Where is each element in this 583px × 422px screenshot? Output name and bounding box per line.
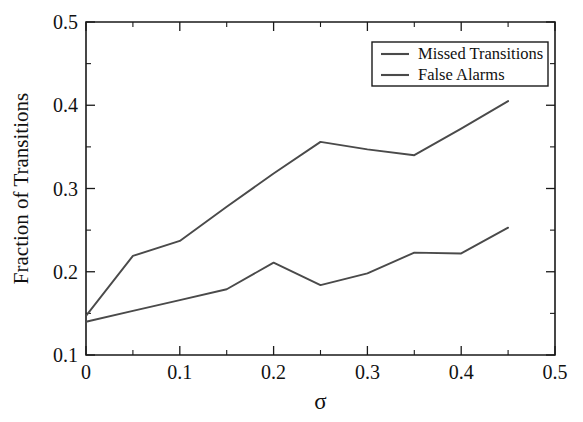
y-tick-label: 0.5 [53, 11, 78, 33]
y-tick-label: 0.4 [53, 94, 78, 116]
x-tick-label: 0.3 [355, 361, 380, 383]
legend[interactable]: Missed TransitionsFalse Alarms [372, 42, 548, 86]
x-tick-label: 0 [81, 361, 91, 383]
y-tick-label: 0.3 [53, 178, 78, 200]
y-tick-label: 0.2 [53, 261, 78, 283]
y-tick-label: 0.1 [53, 344, 78, 366]
x-tick-label: 0.4 [449, 361, 474, 383]
x-tick-label: 0.5 [543, 361, 568, 383]
x-tick-label: 0.1 [167, 361, 192, 383]
legend-label-false-alarms: False Alarms [418, 65, 505, 84]
chart-page: 00.10.20.30.40.50.10.20.30.40.5 σFractio… [0, 0, 583, 422]
y-axis-title: Fraction of Transitions [9, 93, 33, 284]
line-chart: 00.10.20.30.40.50.10.20.30.40.5 σFractio… [0, 0, 583, 422]
x-tick-label: 0.2 [261, 361, 286, 383]
x-axis-title: σ [314, 389, 327, 414]
legend-label-missed-transitions: Missed Transitions [418, 44, 543, 63]
